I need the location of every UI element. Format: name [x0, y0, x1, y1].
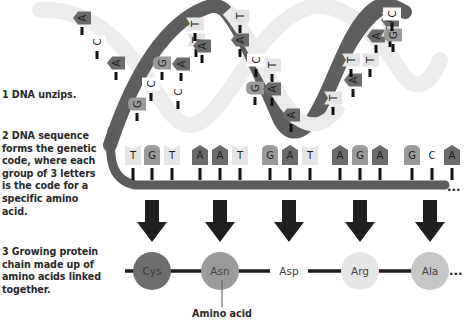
base-letter: A — [217, 150, 224, 161]
amino-acid-name: Asn — [210, 265, 229, 277]
base-A: A — [192, 145, 208, 165]
base-letter: A — [449, 150, 456, 161]
base-stem — [136, 113, 139, 121]
base-stem — [180, 73, 183, 81]
base-stem — [369, 69, 372, 77]
base-C: C — [169, 86, 187, 99]
amino-acid-name: Asp — [279, 265, 299, 277]
base-stem — [254, 97, 257, 105]
base-A: A — [282, 145, 298, 165]
base-G: G — [262, 145, 278, 165]
base-letter: C — [173, 88, 184, 95]
base-A: A — [444, 145, 460, 165]
base-stem — [431, 168, 434, 180]
base-letter: G — [388, 31, 399, 39]
base-stem — [332, 107, 335, 115]
base-stem — [379, 168, 382, 180]
base-stem — [239, 49, 242, 57]
base-G: G — [153, 57, 171, 70]
base-stem — [239, 25, 242, 33]
base-stem — [132, 168, 135, 180]
base-stem — [96, 51, 99, 59]
base-letter: A — [348, 76, 359, 83]
base-letter: G — [148, 150, 156, 161]
arrow-down-icon — [345, 200, 375, 242]
amino-acid-ala: Ala — [411, 252, 449, 290]
base-letter: C — [146, 80, 157, 87]
base-letter: G — [356, 150, 364, 161]
base-stem — [290, 124, 293, 132]
base-A: A — [344, 74, 362, 87]
base-stem — [239, 168, 242, 180]
base-stem — [289, 168, 292, 180]
base-A: A — [332, 145, 348, 165]
base-A: A — [172, 58, 190, 71]
base-letter: A — [377, 150, 384, 161]
base-T: T — [302, 145, 318, 165]
amino-acid-cys: Cys — [133, 252, 171, 290]
base-G: G — [128, 98, 146, 111]
arrow-down-icon — [137, 200, 167, 242]
base-letter: A — [197, 150, 204, 161]
amino-acid-asp: Asp — [270, 252, 308, 290]
arrow-down-icon — [274, 200, 304, 242]
base-C: C — [424, 145, 440, 165]
base-letter: G — [132, 100, 143, 108]
base-letter: T — [267, 61, 278, 69]
base-C: C — [142, 78, 160, 91]
amino-acid-arg: Arg — [341, 252, 379, 290]
base-stem — [391, 23, 394, 31]
amino-acid-asn: Asn — [201, 252, 239, 290]
base-T: T — [361, 54, 379, 67]
arrow-down-icon — [415, 200, 445, 242]
base-letter: A — [235, 36, 246, 43]
base-stem — [411, 168, 414, 180]
base-letter: C — [251, 56, 262, 63]
base-G: G — [144, 145, 160, 165]
base-stem — [194, 33, 197, 41]
chain-continuation: ... — [449, 264, 463, 278]
amino-acid-label: Amino acid — [192, 308, 252, 319]
base-stem — [201, 55, 204, 63]
base-T: T — [232, 145, 248, 165]
base-stem — [271, 98, 274, 106]
base-letter: T — [236, 150, 244, 161]
base-letter: T — [190, 20, 201, 28]
amino-acid-name: Arg — [351, 265, 369, 277]
base-letter: C — [92, 38, 103, 45]
base-letter: A — [337, 150, 344, 161]
base-C: C — [247, 54, 265, 67]
base-stem — [255, 69, 258, 77]
base-A: A — [212, 145, 228, 165]
base-stem — [271, 74, 274, 82]
base-stem — [309, 168, 312, 180]
base-stem — [161, 72, 164, 80]
base-stem — [150, 93, 153, 101]
base-letter: G — [408, 150, 416, 161]
base-A: A — [372, 145, 388, 165]
base-letter: A — [287, 150, 294, 161]
base-letter: C — [429, 150, 436, 161]
base-letter: A — [267, 85, 278, 92]
base-letter: A — [111, 59, 122, 66]
base-C: C — [88, 36, 106, 49]
base-stem — [199, 168, 202, 180]
base-stem — [359, 168, 362, 180]
base-letter: G — [250, 84, 261, 92]
base-stem — [269, 168, 272, 180]
base-T: T — [125, 145, 141, 165]
base-stem — [392, 44, 395, 52]
base-stem — [81, 27, 84, 35]
base-T: T — [164, 145, 180, 165]
base-stem — [115, 72, 118, 80]
base-stem — [219, 168, 222, 180]
base-letter: C — [387, 10, 398, 17]
amino-acid-name: Cys — [142, 265, 161, 277]
base-stem — [375, 45, 378, 53]
dna-diagram: ACAGCGCATTATACGTAATATTATAGC TGTAATGATAGA… — [0, 0, 473, 322]
base-letter: T — [235, 12, 246, 20]
sequence-continuation: ... — [447, 180, 461, 194]
sequence-bases: TGTAATGATAGAGCA — [125, 145, 460, 180]
base-letter: A — [77, 14, 88, 21]
codon-arrows — [137, 200, 445, 242]
